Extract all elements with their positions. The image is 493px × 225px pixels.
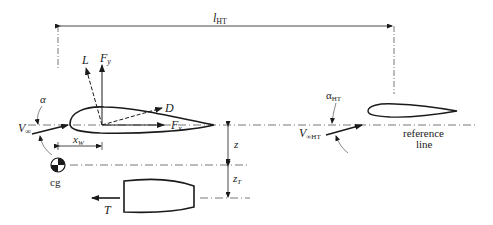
l-ht-dimension: lHT xyxy=(58,11,394,94)
alpha-ht-label: αHT xyxy=(326,89,342,103)
reference-line-label-2: line xyxy=(416,138,433,150)
aircraft-force-diagram: lHT L Fy D Fx α V∞ xW cg z zT T αHT xyxy=(0,0,493,225)
tail-velocity-arrow xyxy=(326,125,362,135)
xw-label: xW xyxy=(72,133,85,147)
l-ht-label: lHT xyxy=(213,11,227,26)
fy-label: Fy xyxy=(99,51,111,66)
thrust-label: T xyxy=(104,203,112,217)
freestream-velocity-arrow xyxy=(32,125,68,134)
drag-label: D xyxy=(164,101,174,115)
fx-label: Fx xyxy=(170,118,182,133)
cg-label: cg xyxy=(50,176,61,188)
v-inf-label: V∞ xyxy=(18,121,31,136)
z-label: z xyxy=(233,138,239,150)
v-inf-ht-label: V∞HT xyxy=(299,126,321,141)
tail-airfoil xyxy=(368,104,457,117)
cg-symbol xyxy=(51,158,65,172)
alpha-label: α xyxy=(40,93,46,105)
force-vectors xyxy=(86,65,164,125)
zt-label: zT xyxy=(232,172,242,186)
wing-airfoil xyxy=(70,107,214,133)
engine-nacelle xyxy=(124,179,194,212)
lift-label: L xyxy=(81,53,89,67)
